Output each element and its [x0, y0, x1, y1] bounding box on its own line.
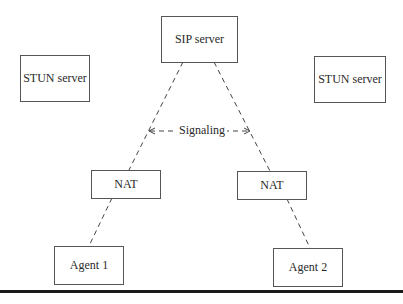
bottom-rule-divider — [0, 290, 403, 293]
edge-sip-nat-left — [129, 62, 183, 170]
agent1-node: Agent 1 — [54, 246, 124, 285]
stun-server-right-node: STUN server — [314, 56, 386, 103]
edge-nat-right-agent2 — [287, 199, 310, 248]
nat-right-node: NAT — [237, 171, 307, 200]
nat-right-label: NAT — [260, 178, 283, 193]
nat-left-label: NAT — [114, 177, 137, 192]
stun-server-left-node: STUN server — [20, 55, 90, 102]
signaling-label: Signaling — [177, 123, 227, 138]
stun-server-right-label: STUN server — [318, 72, 382, 87]
nat-left-node: NAT — [91, 170, 161, 199]
agent1-label: Agent 1 — [70, 258, 108, 273]
edge-sip-nat-right — [214, 62, 270, 171]
agent2-label: Agent 2 — [289, 260, 327, 275]
stun-server-left-label: STUN server — [23, 71, 87, 86]
edge-nat-left-agent1 — [89, 198, 112, 246]
agent2-node: Agent 2 — [273, 248, 343, 287]
sip-server-label: SIP server — [175, 32, 224, 47]
sip-server-node: SIP server — [161, 16, 238, 63]
